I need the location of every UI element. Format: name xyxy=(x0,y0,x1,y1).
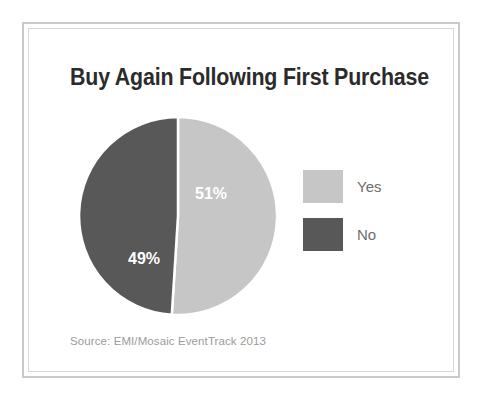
pie-chart-svg: 51% 49% xyxy=(78,116,278,316)
chart-legend: Yes No xyxy=(303,169,433,265)
legend-item-no[interactable]: No xyxy=(303,217,433,251)
pie-chart: 51% 49% xyxy=(78,116,278,316)
legend-label-yes: Yes xyxy=(357,179,381,194)
source-note: Source: EMI/Mosaic EventTrack 2013 xyxy=(70,335,266,347)
legend-label-no: No xyxy=(357,227,376,242)
figure-frame: Buy Again Following First Purchase 51% 4… xyxy=(22,22,460,378)
pie-slice-no[interactable] xyxy=(79,117,178,315)
pie-slice-yes[interactable] xyxy=(172,117,277,315)
legend-swatch-no xyxy=(303,218,343,251)
figure-body: Buy Again Following First Purchase 51% 4… xyxy=(29,29,453,371)
pie-slice-label-yes: 51% xyxy=(195,185,227,202)
legend-item-yes[interactable]: Yes xyxy=(303,169,433,203)
figure-frame-inner-border: Buy Again Following First Purchase 51% 4… xyxy=(28,28,454,372)
page-title: Buy Again Following First Purchase xyxy=(70,65,414,90)
pie-slice-label-no: 49% xyxy=(128,250,160,267)
legend-swatch-yes xyxy=(303,170,343,203)
